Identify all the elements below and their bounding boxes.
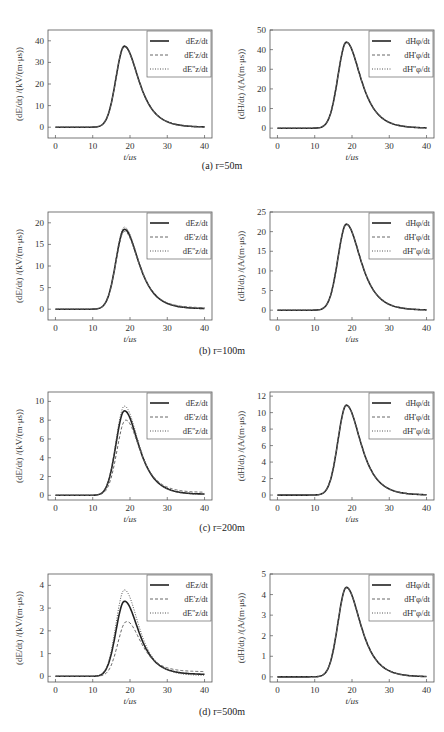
x-tick-label: 40: [200, 503, 210, 513]
y-tick-label: 4: [40, 453, 45, 463]
y-axis-label: (dE/dt) /(kV/(m·μs)): [14, 229, 24, 303]
x-tick-label: 10: [310, 141, 320, 151]
y-tick-label: 2: [40, 472, 45, 482]
legend-entry: dHφ/dt: [406, 580, 431, 590]
legend-entry: dH'φ/dt: [404, 412, 430, 422]
legend-entry: dH''φ/dt: [403, 426, 431, 436]
y-axis-label: (dH/dt) /(A/(m·μs)): [236, 593, 246, 664]
x-tick-label: 40: [200, 685, 210, 695]
y-tick-label: 8: [40, 415, 45, 425]
y-axis-label: (dE/dt) /(kV/(m·μs)): [14, 47, 24, 121]
x-tick-label: 10: [310, 503, 320, 513]
y-tick-label: 2: [262, 474, 267, 484]
x-tick-label: 30: [385, 323, 395, 333]
x-tick-label: 10: [88, 503, 98, 513]
x-tick-label: 40: [200, 141, 210, 151]
legend-entry: dEz/dt: [186, 398, 209, 408]
x-tick-label: 20: [348, 323, 358, 333]
y-tick-label: 20: [257, 227, 267, 237]
y-tick-label: 4: [262, 590, 267, 600]
x-tick-label: 30: [163, 323, 173, 333]
legend-entry: dE'z/dt: [184, 594, 208, 604]
x-tick-label: 20: [126, 323, 136, 333]
x-tick-label: 30: [385, 503, 395, 513]
x-tick-label: 10: [88, 685, 98, 695]
x-tick-label: 0: [53, 323, 58, 333]
legend-entry: dE'z/dt: [184, 232, 208, 242]
caption-c: (c) r=200m: [0, 522, 444, 533]
y-tick-label: 10: [257, 104, 267, 114]
legend-entry: dH'φ/dt: [404, 594, 430, 604]
legend-entry: dEz/dt: [186, 580, 209, 590]
chart-c-H: 010203040024681012t/μs(dH/dt) /(A/(m·μs)…: [222, 370, 444, 526]
x-tick-label: 0: [275, 503, 280, 513]
x-axis-label: t/μs: [123, 696, 137, 704]
y-tick-label: 3: [40, 603, 45, 613]
y-tick-label: 0: [262, 490, 267, 500]
x-tick-label: 40: [200, 323, 210, 333]
legend-entry: dEz/dt: [186, 218, 209, 228]
x-tick-label: 30: [385, 141, 395, 151]
y-tick-label: 8: [262, 424, 267, 434]
y-tick-label: 25: [257, 207, 267, 217]
x-tick-label: 20: [348, 685, 358, 695]
legend-entry: dH'φ/dt: [404, 232, 430, 242]
legend-entry: dE''z/dt: [183, 246, 209, 256]
x-axis-label: t/μs: [123, 334, 137, 342]
y-tick-label: 0: [40, 304, 45, 314]
caption-b: (b) r=100m: [0, 345, 444, 356]
y-tick-label: 10: [257, 408, 267, 418]
x-axis-label: t/μs: [123, 514, 137, 522]
y-tick-label: 4: [40, 580, 45, 590]
x-tick-label: 40: [422, 323, 432, 333]
y-tick-label: 10: [35, 396, 45, 406]
y-tick-label: 20: [257, 84, 267, 94]
x-tick-label: 20: [126, 685, 136, 695]
y-tick-label: 0: [40, 490, 45, 500]
y-axis-label: (dH/dt) /(A/(m·μs)): [236, 231, 246, 302]
y-tick-label: 5: [262, 286, 267, 296]
legend-entry: dE''z/dt: [183, 608, 209, 618]
y-tick-label: 15: [257, 246, 267, 256]
chart-d-E: 01020304001234t/μs(dE/dt) /(kV/(m·μs))dE…: [0, 552, 222, 708]
y-tick-label: 1: [40, 649, 45, 659]
y-tick-label: 30: [257, 64, 267, 74]
y-tick-label: 0: [40, 671, 45, 681]
chart-b-H: 0102030400510152025t/μs(dH/dt) /(A/(m·μs…: [222, 190, 444, 346]
legend-entry: dE'z/dt: [184, 50, 208, 60]
chart-a-E: 010203040010203040t/μs(dE/dt) /(kV/(m·μs…: [0, 8, 222, 164]
y-tick-label: 6: [262, 441, 267, 451]
y-tick-label: 5: [40, 283, 45, 293]
y-axis-label: (dE/dt) /(kV/(m·μs)): [14, 591, 24, 665]
x-tick-label: 30: [385, 685, 395, 695]
x-tick-label: 0: [275, 323, 280, 333]
legend-entry: dHφ/dt: [406, 36, 431, 46]
x-tick-label: 40: [422, 685, 432, 695]
y-axis-label: (dH/dt) /(A/(m·μs)): [236, 49, 246, 120]
x-tick-label: 0: [275, 685, 280, 695]
y-tick-label: 0: [262, 123, 267, 133]
y-tick-label: 20: [35, 79, 45, 89]
x-tick-label: 30: [163, 503, 173, 513]
y-tick-label: 5: [262, 569, 267, 579]
chart-a-H: 01020304001020304050t/μs(dH/dt) /(A/(m·μ…: [222, 8, 444, 164]
x-axis-label: t/μs: [123, 152, 137, 160]
y-tick-label: 2: [262, 631, 267, 641]
y-tick-label: 20: [35, 218, 45, 228]
y-tick-label: 10: [35, 261, 45, 271]
y-tick-label: 50: [257, 25, 267, 35]
y-tick-label: 15: [35, 239, 45, 249]
legend-entry: dH''φ/dt: [403, 246, 431, 256]
x-tick-label: 20: [126, 503, 136, 513]
x-tick-label: 20: [348, 141, 358, 151]
y-tick-label: 3: [262, 610, 267, 620]
legend-entry: dHφ/dt: [406, 218, 431, 228]
x-tick-label: 0: [275, 141, 280, 151]
x-tick-label: 0: [53, 685, 58, 695]
y-tick-label: 1: [262, 651, 267, 661]
legend-entry: dH''φ/dt: [403, 608, 431, 618]
x-tick-label: 10: [88, 141, 98, 151]
x-axis-label: t/μs: [345, 334, 359, 342]
y-tick-label: 12: [257, 391, 266, 401]
y-tick-label: 4: [262, 457, 267, 467]
